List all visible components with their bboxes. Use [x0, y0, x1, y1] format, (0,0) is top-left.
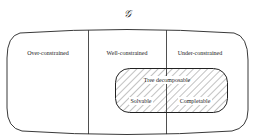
graph-set-title: 𝒢	[124, 8, 133, 19]
region-label-over-constrained: Over-constrained	[27, 50, 69, 56]
region-label-under-constrained: Under-constrained	[178, 50, 223, 56]
inner-label-solvable: Solvable	[131, 98, 152, 104]
constraint-diagram: 𝒢 Over-constrained Well-constrained Unde…	[0, 0, 254, 140]
inner-label-tree-decomposable: Tree decomposable	[144, 77, 191, 83]
inner-set-tree-decomposable	[116, 69, 228, 113]
inner-label-completable: Completable	[180, 98, 211, 104]
region-label-well-constrained: Well-constrained	[107, 50, 148, 56]
